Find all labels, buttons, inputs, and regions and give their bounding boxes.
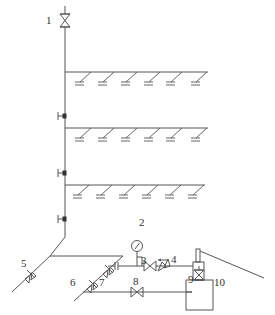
valve-5-icon: [25, 270, 36, 283]
sprinkler-system-diagram: 1 2 3 4 5 6 7 8 9 10: [0, 0, 275, 315]
label-7: 7: [99, 276, 105, 288]
label-1: 1: [46, 14, 52, 26]
label-10: 10: [214, 276, 226, 288]
check-valve-4-icon: [158, 259, 170, 272]
label-5: 5: [21, 257, 27, 269]
label-2: 2: [139, 216, 145, 228]
branch-floor-2: [65, 128, 208, 141]
valve-9-icon: [194, 266, 204, 280]
branch-floor-1: [65, 72, 208, 85]
sprinkler-icon: [73, 185, 204, 198]
callout-labels: 1 2 3 4 5 6 7 8 9 10: [21, 14, 226, 288]
label-9: 9: [188, 273, 194, 285]
label-8: 8: [133, 275, 139, 287]
sprinkler-icon: [75, 72, 207, 85]
valve-7-icon: [103, 265, 114, 278]
label-6: 6: [70, 276, 76, 288]
sprinkler-icon: [75, 128, 207, 141]
valve-6-icon: [87, 280, 98, 293]
branch-floor-3: [65, 185, 205, 198]
union-icon: [115, 262, 118, 270]
label-3: 3: [141, 254, 147, 266]
supply-manifold: [12, 237, 193, 301]
valve-1-icon: [60, 14, 70, 27]
pressure-tank-icon: [186, 249, 264, 310]
label-4: 4: [171, 253, 177, 265]
